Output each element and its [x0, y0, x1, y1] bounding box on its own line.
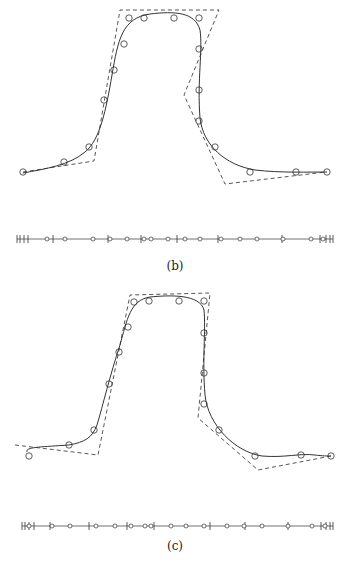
data-point-c [131, 299, 137, 305]
parameter-point-b [255, 237, 259, 241]
parameter-point-b [309, 237, 313, 241]
parameter-point-c [202, 524, 206, 528]
parameter-point-b [238, 237, 242, 241]
data-point-c [201, 298, 207, 304]
control-polygon-c [15, 293, 331, 470]
parameter-point-c [149, 524, 153, 528]
parameter-point-b [149, 237, 153, 241]
data-point-c [125, 324, 131, 330]
data-point-b [61, 159, 67, 165]
parameter-point-c [286, 524, 290, 528]
data-point-b [196, 15, 202, 21]
data-point-c [146, 298, 152, 304]
parameter-point-c [27, 524, 31, 528]
parameter-point-b [142, 237, 146, 241]
parameter-point-b [321, 237, 325, 241]
data-point-b [196, 118, 202, 124]
data-point-b [196, 46, 202, 52]
data-point-b [126, 15, 132, 21]
parameter-point-c [169, 524, 173, 528]
parameter-point-c [113, 524, 117, 528]
parameter-point-c [143, 524, 147, 528]
data-point-c [252, 453, 258, 459]
parameter-point-c [184, 524, 188, 528]
parameter-point-c [129, 524, 133, 528]
parameter-point-b [63, 237, 67, 241]
control-polygon-b [23, 10, 326, 184]
caption-b: (b) [155, 259, 195, 273]
data-point-c [216, 427, 222, 433]
parameter-point-c [50, 524, 54, 528]
parameter-point-b [108, 237, 112, 241]
parameter-point-b [91, 237, 95, 241]
parameter-point-b [281, 237, 285, 241]
data-point-b [111, 67, 117, 73]
parameter-point-b [198, 237, 202, 241]
parameter-point-c [94, 524, 98, 528]
parameter-point-b [219, 237, 223, 241]
parameter-point-c [242, 524, 246, 528]
parameter-point-b [166, 237, 170, 241]
parameter-point-c [310, 524, 314, 528]
parameter-point-c [68, 524, 72, 528]
data-point-b [121, 41, 127, 47]
parameter-point-b [125, 237, 129, 241]
parameter-point-c [260, 524, 264, 528]
data-point-c [26, 453, 32, 459]
parameter-point-c [323, 524, 327, 528]
figure-canvas [0, 0, 349, 567]
data-point-b [171, 15, 177, 21]
data-point-b [101, 97, 107, 103]
data-point-b [86, 144, 92, 150]
spline-curve-b [23, 13, 327, 173]
data-point-c [176, 298, 182, 304]
parameter-point-c [225, 524, 229, 528]
data-point-c [91, 427, 97, 433]
caption-c: (c) [155, 539, 195, 553]
parameter-point-b [45, 237, 49, 241]
data-point-b [247, 169, 253, 175]
parameter-point-b [183, 237, 187, 241]
spline-curve-c [27, 296, 331, 457]
